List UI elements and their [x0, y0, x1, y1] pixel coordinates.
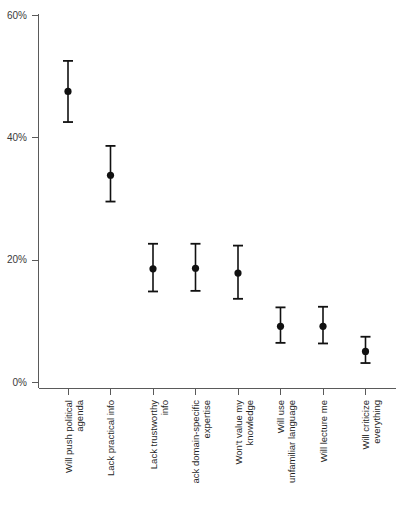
- data-point-marker: [64, 88, 71, 95]
- x-axis-label-line: info: [159, 400, 170, 415]
- x-axis-label-line: Won't value my: [233, 400, 244, 465]
- x-axis-label-6: Will useunfamiliar language: [275, 400, 297, 483]
- x-axis-label-line: knowledge: [244, 400, 255, 445]
- x-axis-label-3: Lack trustworthyinfo: [148, 400, 170, 469]
- data-point-group: [233, 246, 243, 299]
- x-axis-label-line: Will lecture me: [318, 400, 329, 462]
- y-tick-label: 40%: [7, 132, 27, 143]
- x-axis-label-1: Will push politicalagenda: [63, 399, 85, 473]
- x-axis-label-line: unfamiliar language: [286, 400, 297, 483]
- error-bar-chart: 0%20%40%60% Will push politicalagendaLac…: [0, 0, 399, 510]
- x-axis-label-line: expertise: [201, 400, 212, 439]
- x-axis-label-line: Will push political: [63, 400, 74, 473]
- x-axis-ticks: [68, 389, 366, 396]
- data-point-marker: [362, 348, 369, 355]
- data-point-group: [191, 244, 201, 291]
- x-axis-label-line: Will use: [275, 400, 286, 433]
- y-tick-label: 60%: [7, 10, 27, 21]
- chart-container: 0%20%40%60% Will push politicalagendaLac…: [0, 0, 399, 510]
- data-point-marker: [234, 270, 241, 277]
- x-axis-label-2: Lack practical info: [105, 400, 116, 476]
- data-point-group: [318, 307, 328, 344]
- x-axis-label-5: Won't value myknowledge: [233, 400, 255, 465]
- data-series: [63, 61, 371, 363]
- data-point-group: [63, 61, 73, 122]
- x-axis-label-line: everything: [371, 400, 382, 444]
- data-point-marker: [107, 172, 114, 179]
- data-point-group: [361, 337, 371, 363]
- data-point-marker: [277, 323, 284, 330]
- data-point-marker: [149, 265, 156, 272]
- y-axis-ticks: 0%20%40%60%: [7, 10, 39, 388]
- x-axis-label-line: Lack practical info: [105, 400, 116, 476]
- x-axis-label-8: Will criticizeeverything: [360, 400, 382, 450]
- data-point-group: [276, 307, 286, 342]
- y-tick-label: 20%: [7, 254, 27, 265]
- data-point-group: [106, 146, 116, 202]
- x-axis-label-7: Will lecture me: [318, 400, 329, 462]
- data-point-group: [148, 244, 158, 292]
- x-axis-category-labels: Will push politicalagendaLack practical …: [63, 399, 383, 483]
- x-axis-label-line: ack domain-specific: [190, 400, 201, 484]
- y-tick-label: 0%: [13, 377, 28, 388]
- x-axis-label-line: Lack trustworthy: [148, 400, 159, 469]
- data-point-marker: [192, 265, 199, 272]
- x-axis-label-line: Will criticize: [360, 400, 371, 450]
- x-axis-label-line: agenda: [74, 399, 85, 431]
- data-point-marker: [319, 323, 326, 330]
- x-axis-label-4: ack domain-specificexpertise: [190, 400, 212, 484]
